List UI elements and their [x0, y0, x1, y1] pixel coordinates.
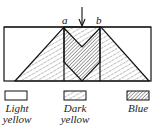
legend-label-line2: yellow — [0, 114, 34, 125]
legend-label-line2: yellow — [58, 114, 92, 125]
legend-swatch-light-yellow — [5, 91, 27, 100]
legend-swatch-blue — [127, 91, 149, 100]
label-b: b — [96, 14, 102, 26]
legend-item-blue: Blue — [122, 103, 154, 114]
legend-item-light-yellow: Light yellow — [0, 103, 34, 125]
legend-item-dark-yellow: Dark yellow — [58, 103, 92, 125]
down-arrow-icon — [79, 7, 85, 26]
label-a: a — [62, 14, 68, 26]
legend-swatch-dark-yellow — [64, 91, 86, 100]
legend-label-line1: Blue — [122, 103, 154, 114]
